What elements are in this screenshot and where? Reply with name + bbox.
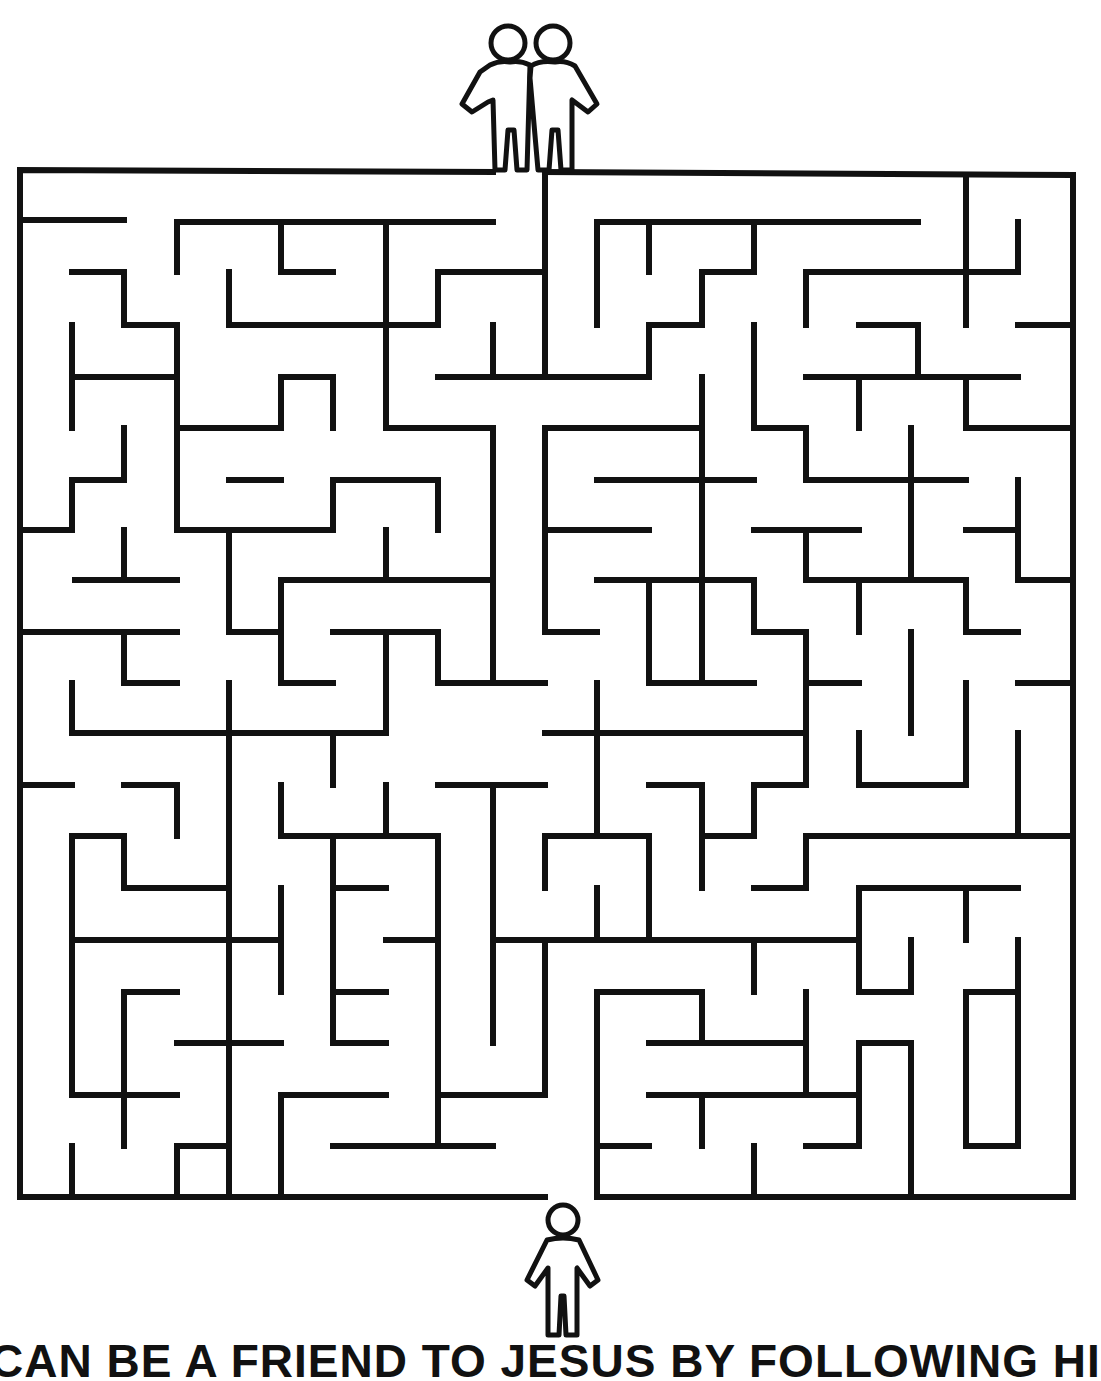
maze-wall (649, 733, 806, 836)
maze-wall (281, 580, 493, 632)
maze-wall (438, 940, 859, 1095)
friend-left-icon (462, 26, 530, 170)
maze-wall (1018, 480, 1073, 580)
maze-wall (281, 222, 333, 272)
maze-wall (72, 836, 229, 888)
maze-wall (966, 377, 1073, 428)
maze-wall (966, 580, 1018, 632)
maze-wall (966, 940, 1018, 1146)
maze-wall (597, 836, 649, 940)
maze-wall (859, 325, 918, 377)
maze-wall (545, 683, 597, 888)
maze-wall (177, 428, 438, 530)
maze-wall (177, 1146, 229, 1197)
maze-wall (333, 836, 386, 1043)
friend-right-icon (530, 26, 597, 170)
two-friends-icon (462, 26, 597, 170)
maze-wall (124, 632, 177, 683)
maze-wall (859, 888, 911, 992)
maze-wall (545, 580, 806, 733)
maze-wall (72, 272, 333, 428)
maze-wall (966, 222, 1018, 272)
maze-wall (177, 222, 493, 272)
maze-wall (806, 272, 966, 325)
maze-wall (597, 580, 754, 683)
maze-wall (124, 785, 177, 836)
maze-wall (754, 836, 1018, 888)
maze-wall (20, 428, 124, 530)
maze-walls (20, 170, 1073, 1197)
maze-wall (72, 530, 177, 580)
caption-text: CAN BE A FRIEND TO JESUS BY FOLLOWING HI (0, 1338, 1100, 1381)
maze-wall (281, 785, 438, 1146)
person-icon (527, 1205, 598, 1335)
maze-wall (806, 1095, 859, 1146)
maze-wall (597, 992, 806, 1043)
maze-wall (806, 530, 966, 580)
